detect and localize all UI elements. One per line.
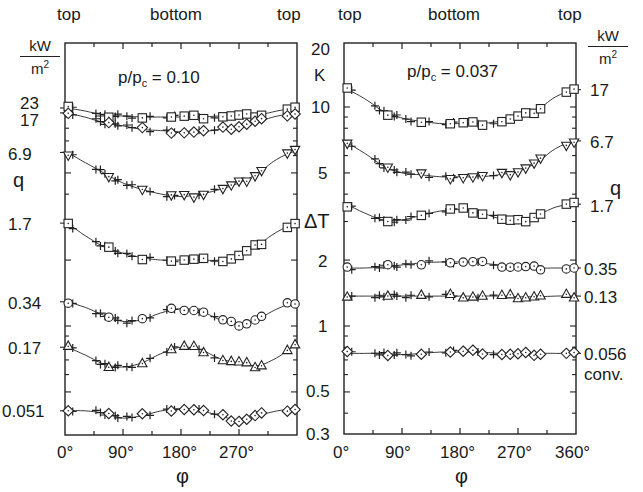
marker-dot	[472, 176, 474, 178]
marker-dot	[462, 261, 464, 263]
right-conv-annotation: conv.	[584, 366, 623, 383]
marker-dot	[472, 212, 474, 214]
marker-dot	[142, 259, 144, 261]
marker-triangle-down	[459, 175, 468, 183]
right-x-tick-90: 90°	[385, 444, 411, 461]
marker-dot	[238, 126, 240, 128]
marker-dot	[142, 413, 144, 415]
marker-dot	[517, 353, 519, 355]
marker-dot	[203, 410, 205, 412]
marker-triangle-down	[227, 182, 236, 190]
marker-dot	[509, 118, 511, 120]
marker-dot	[462, 350, 464, 352]
marker-dot	[540, 269, 542, 271]
cross-marker	[146, 128, 154, 136]
right-x-tick-270: 270°	[497, 444, 532, 461]
marker-dot	[246, 418, 248, 420]
series-q-1-7	[64, 219, 299, 265]
marker-dot	[246, 250, 248, 252]
marker-dot	[183, 345, 185, 347]
delta-t-tick-1: 1	[318, 318, 327, 335]
marker-dot	[261, 412, 263, 414]
marker-triangle-up	[180, 341, 189, 349]
marker-dot	[171, 194, 173, 196]
marker-dot	[346, 266, 348, 268]
cross-marker	[123, 412, 131, 420]
marker-dot	[450, 123, 452, 125]
marker-dot	[482, 353, 484, 355]
marker-dot	[509, 294, 511, 296]
cross-marker	[211, 185, 219, 193]
marker-dot	[482, 175, 484, 177]
marker-dot	[222, 261, 224, 263]
cross-marker	[128, 114, 136, 122]
marker-dot	[540, 295, 542, 297]
marker-dot	[67, 113, 69, 115]
delta-t-tick-0-3: 0.3	[306, 426, 330, 443]
marker-dot	[462, 177, 464, 179]
marker-dot	[533, 113, 535, 115]
cross-marker	[211, 257, 219, 265]
marker-dot	[171, 349, 173, 351]
marker-dot	[287, 108, 289, 110]
marker-dot	[261, 170, 263, 172]
marker-dot	[573, 267, 575, 269]
marker-dot	[261, 244, 263, 246]
marker-dot	[246, 123, 248, 125]
marker-dot	[573, 141, 575, 143]
marker-triangle-up	[536, 291, 545, 299]
marker-dot	[501, 266, 503, 268]
marker-dot	[462, 122, 464, 124]
marker-dot	[566, 268, 568, 270]
cross-marker	[407, 352, 415, 360]
cross-marker	[490, 172, 498, 180]
marker-dot	[254, 415, 256, 417]
marker-dot	[287, 302, 289, 304]
marker-dot	[421, 353, 423, 355]
cross-marker	[407, 170, 415, 178]
marker-dot	[238, 325, 240, 327]
marker-dot	[108, 413, 110, 415]
cross-marker	[407, 261, 415, 269]
marker-dot	[566, 353, 568, 355]
marker-triangle-down	[562, 142, 571, 150]
marker-triangle-up	[218, 355, 227, 363]
marker-dot	[193, 310, 195, 312]
cross-marker	[425, 257, 433, 265]
marker-triangle-down	[417, 170, 426, 178]
marker-dot	[482, 295, 484, 297]
marker-dot	[387, 166, 389, 168]
marker-triangle-up	[290, 339, 299, 347]
marker-dot	[387, 264, 389, 266]
marker-dot	[501, 354, 503, 356]
marker-dot	[525, 297, 527, 299]
right-unit-numerator: kW	[588, 28, 628, 47]
marker-triangle-down	[529, 160, 538, 168]
marker-dot	[501, 172, 503, 174]
marker-dot	[67, 154, 69, 156]
marker-dot	[482, 261, 484, 263]
marker-dot	[142, 363, 144, 365]
series-q-0-13	[343, 289, 579, 302]
left-x-tick-0: 0°	[57, 444, 73, 461]
marker-triangle-up	[234, 357, 243, 365]
right-q-label-0-056: 0.056	[584, 346, 627, 363]
right-top-label-end: top	[558, 6, 582, 23]
marker-dot	[294, 223, 296, 225]
marker-dot	[509, 266, 511, 268]
marker-dot	[67, 106, 69, 108]
marker-dot	[203, 194, 205, 196]
marker-dot	[193, 409, 195, 411]
left-q-axis-label: q	[13, 170, 24, 190]
cross-marker	[371, 155, 379, 163]
right-x-tick-360: 360°	[555, 444, 590, 461]
marker-dot	[230, 321, 232, 323]
marker-dot	[517, 115, 519, 117]
cross-marker	[211, 114, 219, 122]
marker-dot	[509, 354, 511, 356]
marker-dot	[142, 127, 144, 129]
marker-triangle-down	[506, 172, 515, 180]
right-q-axis-label: q	[610, 178, 621, 198]
marker-dot	[254, 120, 256, 122]
marker-dot	[421, 264, 423, 266]
